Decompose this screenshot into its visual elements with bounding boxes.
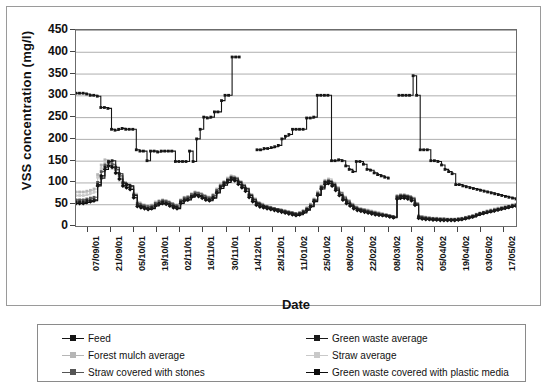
x-tick-label: 28/12/01 [276, 236, 286, 271]
y-tick-mark [70, 225, 75, 226]
x-tick-mark [87, 227, 88, 232]
x-tick-mark [179, 227, 180, 232]
x-tick-label: 19/10/01 [160, 236, 170, 271]
legend-item-label: Green waste covered with plastic media [332, 367, 509, 378]
x-tick-label: 16/11/01 [206, 236, 216, 271]
legend-item[interactable]: Feed [62, 330, 205, 346]
legend-item-label: Forest mulch average [88, 350, 185, 361]
x-tick-label: 25/01/02 [322, 236, 332, 271]
y-tick-mark [70, 138, 75, 139]
y-tick-mark [70, 160, 75, 161]
y-tick-label: 250 [48, 109, 68, 123]
legend-item-label: Green waste average [332, 333, 428, 344]
y-tick-mark [70, 51, 75, 52]
legend-column-left: FeedForest mulch averageStraw covered wi… [62, 330, 205, 381]
chart-frame: VSS concentration (mg/l) 050100150200250… [6, 6, 541, 306]
x-tick-label: 05/10/01 [137, 236, 147, 271]
x-tick-label: 22/03/02 [415, 236, 425, 271]
chart-legend: FeedForest mulch averageStraw covered wi… [37, 324, 526, 382]
x-tick-label: 07/09/01 [91, 236, 101, 271]
y-tick-label: 400 [48, 44, 68, 58]
x-tick-mark [156, 227, 157, 232]
x-tick-mark [457, 227, 458, 232]
y-tick-mark [70, 29, 75, 30]
x-tick-mark [110, 227, 111, 232]
legend-item-label: Feed [88, 333, 111, 344]
x-tick-label: 30/11/01 [230, 236, 240, 271]
plot-wrapper: 050100150200250300350400450 07/09/0121/0… [75, 29, 517, 227]
x-tick-mark [272, 227, 273, 232]
x-tick-label: 19/04/02 [461, 236, 471, 271]
legend-marker-icon [306, 350, 328, 361]
x-tick-label: 22/02/02 [368, 236, 378, 271]
x-tick-mark [480, 227, 481, 232]
x-tick-label: 05/04/02 [438, 236, 448, 271]
x-tick-mark [249, 227, 250, 232]
x-tick-mark [295, 227, 296, 232]
x-tick-label: 08/03/02 [392, 236, 402, 271]
y-tick-label: 200 [48, 131, 68, 145]
legend-marker-icon [306, 367, 328, 378]
legend-item[interactable]: Green waste average [306, 330, 509, 346]
y-tick-mark [70, 94, 75, 95]
y-tick-label: 100 [48, 174, 68, 188]
x-tick-mark [388, 227, 389, 232]
y-axis-title: VSS concentration (mg/l) [19, 6, 34, 216]
x-tick-label: 11/01/02 [299, 236, 309, 271]
legend-marker-icon [62, 367, 84, 378]
y-tick-mark [70, 116, 75, 117]
y-tick-mark [70, 203, 75, 204]
plot-area [75, 29, 517, 227]
y-tick-label: 150 [48, 153, 68, 167]
x-tick-mark [364, 227, 365, 232]
x-tick-mark [133, 227, 134, 232]
y-tick-label: 450 [48, 22, 68, 36]
x-axis-title: Date [75, 297, 517, 312]
x-tick-label: 08/02/02 [345, 236, 355, 271]
y-tick-label: 50 [55, 196, 68, 210]
x-tick-mark [341, 227, 342, 232]
x-tick-label: 03/05/02 [484, 236, 494, 271]
y-tick-label: 350 [48, 66, 68, 80]
x-tick-mark [434, 227, 435, 232]
legend-item-label: Straw covered with stones [88, 367, 205, 378]
x-tick-mark [411, 227, 412, 232]
legend-item-label: Straw average [332, 350, 396, 361]
legend-item[interactable]: Green waste covered with plastic media [306, 364, 509, 380]
x-tick-mark [503, 227, 504, 232]
y-tick-label: 0 [61, 218, 68, 232]
x-tick-label: 14/12/01 [253, 236, 263, 271]
y-tick-mark [70, 73, 75, 74]
legend-column-right: Green waste averageStraw averageGreen wa… [306, 330, 509, 381]
x-tick-label: 17/05/02 [507, 236, 517, 271]
legend-marker-icon [62, 333, 84, 344]
y-tick-label: 300 [48, 87, 68, 101]
legend-marker-icon [62, 350, 84, 361]
x-tick-label: 02/11/01 [183, 236, 193, 271]
x-tick-mark [318, 227, 319, 232]
x-tick-mark [226, 227, 227, 232]
legend-item[interactable]: Straw average [306, 347, 509, 363]
legend-marker-icon [306, 333, 328, 344]
x-tick-label: 21/09/01 [114, 236, 124, 271]
data-series-layer [76, 30, 516, 226]
legend-item[interactable]: Straw covered with stones [62, 364, 205, 380]
legend-item[interactable]: Forest mulch average [62, 347, 205, 363]
x-tick-mark [202, 227, 203, 232]
y-tick-mark [70, 181, 75, 182]
